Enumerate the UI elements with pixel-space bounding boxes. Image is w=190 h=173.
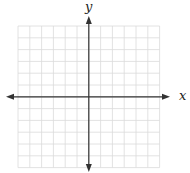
- coordinate-plane: x y: [0, 0, 190, 173]
- y-axis-label: y: [84, 0, 93, 14]
- x-axis-left-arrow-icon: [6, 94, 14, 100]
- x-axis-right-arrow-icon: [162, 94, 170, 100]
- axes: [6, 16, 170, 172]
- x-axis-label: x: [179, 88, 187, 103]
- y-axis-up-arrow-icon: [86, 16, 92, 24]
